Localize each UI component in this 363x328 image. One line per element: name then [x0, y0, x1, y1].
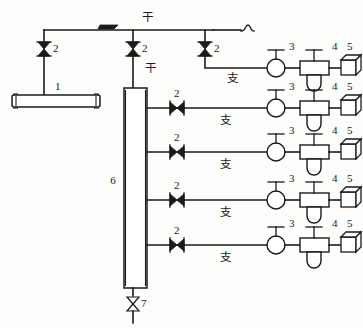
valve-lower-triangle — [38, 49, 50, 56]
regulator-bowl — [307, 115, 321, 131]
tank-body — [12, 95, 100, 107]
branch-label-2: 支 — [220, 157, 232, 171]
trunk-main-line — [44, 25, 254, 31]
cube-front-face — [341, 144, 356, 159]
regulator-4-row-0[interactable] — [300, 50, 329, 91]
regulator-4-row-4[interactable] — [300, 227, 329, 268]
item-3-label-row-2: 3 — [289, 124, 295, 136]
valve-2-label-row-4: 2 — [174, 224, 180, 236]
appliance-5-row-2[interactable] — [341, 139, 361, 159]
regulator-bowl — [307, 252, 321, 268]
item-4-label-row-2: 4 — [332, 124, 338, 136]
branch0-run — [205, 56, 267, 68]
item-1-label: 1 — [55, 80, 61, 92]
regulator-body — [300, 145, 329, 159]
branch-label-0: 支 — [227, 71, 239, 85]
item-3-label-row-3: 3 — [289, 172, 295, 184]
horizontal-tank-item1 — [12, 94, 100, 108]
appliance-5-row-4[interactable] — [341, 232, 361, 252]
drain-valve-lower-triangle — [127, 304, 139, 311]
appliance-5-row-0[interactable] — [341, 55, 361, 75]
appliance-5-row-3[interactable] — [341, 187, 361, 207]
regulator-bowl — [307, 159, 321, 175]
regulator-body — [300, 61, 329, 75]
valve-left-triangle — [170, 102, 177, 114]
pipe-break-squiggle-icon — [241, 25, 254, 31]
piping-schematic-diagram: 干 2 1 — [0, 0, 363, 328]
item-5-label-row-1: 5 — [347, 80, 353, 92]
regulator-body — [300, 238, 329, 252]
valve-upper-triangle — [127, 42, 139, 49]
regulator-4-row-3[interactable] — [300, 182, 329, 223]
branch-label-4: 支 — [220, 250, 232, 264]
item-3-label-row-4: 3 — [289, 217, 295, 229]
valve-2-row-4[interactable] — [170, 238, 184, 252]
item-6-label: 6 — [110, 174, 116, 186]
valve-2-label-row-3: 2 — [174, 179, 180, 191]
cube-front-face — [341, 237, 356, 252]
regulator-4-row-2[interactable] — [300, 134, 329, 175]
meter-circle — [267, 236, 285, 254]
valve-upper-triangle — [38, 42, 50, 49]
trunk-label-top: 干 — [142, 10, 153, 24]
cube-front-face — [341, 192, 356, 207]
item-5-label-row-2: 5 — [347, 124, 353, 136]
item-4-label-row-0: 4 — [332, 40, 338, 52]
item-5-label-row-3: 5 — [347, 172, 353, 184]
regulator-body — [300, 193, 329, 207]
flow-direction-flag-icon — [98, 25, 118, 29]
cube-front-face — [341, 60, 356, 75]
valve-left-triangle — [170, 194, 177, 206]
branch-label-1: 支 — [220, 113, 232, 127]
valve-2-row-2[interactable] — [170, 145, 184, 159]
valve-lower-triangle — [127, 49, 139, 56]
meter-3-row-4[interactable] — [267, 227, 285, 254]
meter-3-row-1[interactable] — [267, 90, 285, 117]
branch-row-4: 2 支 3 4 5 — [147, 217, 361, 268]
valve-7-drain[interactable] — [127, 297, 139, 311]
regulator-bowl — [307, 75, 321, 91]
valve-2-row-1[interactable] — [170, 101, 184, 115]
valve-lower-triangle — [199, 49, 211, 56]
valve-right-triangle — [177, 239, 184, 251]
valve-right-triangle — [177, 102, 184, 114]
appliance-5-row-1[interactable] — [341, 95, 361, 115]
trunk-label-mid: 干 — [145, 61, 156, 75]
meter-3-row-2[interactable] — [267, 134, 285, 161]
valve-2-trunk-mid[interactable] — [126, 42, 140, 56]
valve-2-label-row-2: 2 — [174, 131, 180, 143]
valve-left-triangle — [170, 239, 177, 251]
branch-row-1: 2 支 3 4 5 — [147, 80, 361, 131]
valve-2-trunk-right[interactable] — [198, 42, 212, 56]
column-body — [124, 88, 147, 288]
branch-label-3: 支 — [220, 205, 232, 219]
valve-2-label-row-1: 2 — [174, 87, 180, 99]
drain-leg-item7: 7 — [127, 288, 147, 323]
item-4-label-row-4: 4 — [332, 217, 338, 229]
item-4-label-row-1: 4 — [332, 80, 338, 92]
item-4-label-row-3: 4 — [332, 172, 338, 184]
meter-circle — [267, 99, 285, 117]
valve-2-label-trunk-left: 2 — [53, 42, 59, 54]
drop-leg-column: 2 — [126, 30, 148, 88]
vertical-column-item6 — [124, 88, 147, 288]
branch-row-3: 2 支 3 4 5 — [147, 172, 361, 223]
regulator-bowl — [307, 207, 321, 223]
item-5-label-row-0: 5 — [347, 40, 353, 52]
regulator-body — [300, 101, 329, 115]
valve-upper-triangle — [199, 42, 211, 49]
valve-2-trunk-left[interactable] — [37, 42, 51, 56]
drain-valve-upper-triangle — [127, 297, 139, 304]
valve-2-row-3[interactable] — [170, 193, 184, 207]
item-5-label-row-4: 5 — [347, 217, 353, 229]
meter-3-row-3[interactable] — [267, 182, 285, 209]
item-3-label-row-0: 3 — [289, 40, 295, 52]
valve-right-triangle — [177, 146, 184, 158]
cube-front-face — [341, 100, 356, 115]
meter-3-row-0[interactable] — [267, 50, 285, 77]
meter-circle — [267, 191, 285, 209]
item-7-label: 7 — [141, 297, 147, 309]
valve-right-triangle — [177, 194, 184, 206]
regulator-4-row-1[interactable] — [300, 90, 329, 131]
item-3-label-row-1: 3 — [289, 80, 295, 92]
